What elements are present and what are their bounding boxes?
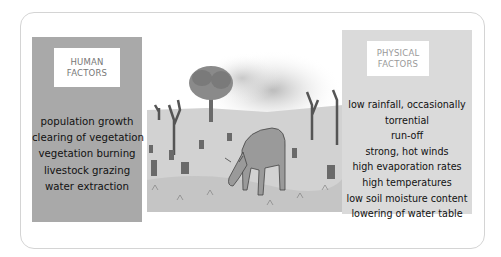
- list-item: low rainfall, occasionally: [342, 97, 472, 113]
- human-factors-list: population growth clearing of vegetation…: [32, 114, 142, 195]
- list-item: high temperatures: [342, 175, 472, 191]
- list-item: clearing of vegetation: [32, 130, 142, 146]
- list-item: run-off: [342, 128, 472, 144]
- header-line: HUMAN: [54, 57, 120, 68]
- list-item: vegetation burning: [32, 146, 142, 162]
- human-factors-panel: HUMAN FACTORS population growth clearing…: [32, 37, 142, 222]
- header-line: PHYSICAL: [367, 48, 429, 59]
- list-item: torrential: [342, 113, 472, 129]
- list-item: high evaporation rates: [342, 159, 472, 175]
- header-line: FACTORS: [367, 59, 429, 70]
- list-item: livestock grazing: [32, 163, 142, 179]
- list-item: lowering of water table: [342, 206, 472, 222]
- physical-factors-panel: PHYSICAL FACTORS low rainfall, occasiona…: [342, 30, 472, 214]
- list-item: strong, hot winds: [342, 144, 472, 160]
- desertification-illustration: [147, 50, 343, 212]
- physical-factors-header: PHYSICAL FACTORS: [367, 41, 429, 76]
- list-item: low soil moisture content: [342, 191, 472, 207]
- header-line: FACTORS: [54, 68, 120, 79]
- list-item: water extraction: [32, 179, 142, 195]
- physical-factors-list: low rainfall, occasionally torrential ru…: [342, 97, 472, 222]
- list-item: population growth: [32, 114, 142, 130]
- human-factors-header: HUMAN FACTORS: [54, 48, 120, 87]
